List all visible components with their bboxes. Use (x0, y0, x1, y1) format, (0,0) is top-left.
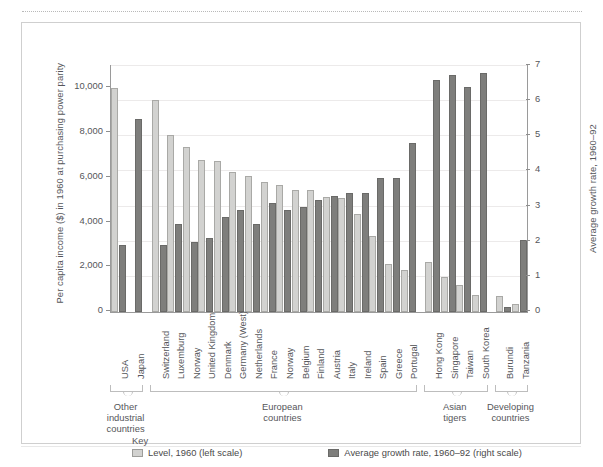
bar-growth-rate (504, 307, 511, 312)
bar-level (441, 277, 448, 312)
y-axis-right-tickmark (526, 169, 530, 170)
group-label-european: European countries (245, 401, 319, 423)
legend: Key Level, 1960 (left scale) Average gro… (132, 435, 602, 465)
x-axis-category-label: Norway (193, 347, 202, 379)
group-label-line: countries (89, 423, 163, 434)
top-divider (22, 11, 582, 12)
bar-growth-rate (362, 193, 369, 312)
bar-level (261, 182, 268, 312)
bar-level (456, 285, 463, 312)
y-axis-left-tick-label: 10,000 (57, 81, 103, 90)
x-axis-category-label: Taiwan (466, 350, 475, 379)
x-axis-category-label: Portugal (410, 344, 419, 379)
y-axis-left-tickmark (106, 310, 110, 311)
bar-level (401, 270, 408, 312)
brace-asian-tigers (424, 385, 488, 392)
group-label-line: industrial (89, 412, 163, 423)
y-axis-left-tickmark (106, 221, 110, 222)
x-axis-category-label: Luxemburg (177, 332, 186, 379)
bar-level (472, 295, 479, 312)
bar-level (292, 190, 299, 312)
group-braces: Other industrial countries European coun… (110, 385, 528, 433)
bar-level (425, 262, 432, 312)
x-axis-category-label: Belgium (302, 345, 311, 379)
bar-growth-rate (222, 217, 229, 312)
y-axis-left-tickmark (106, 176, 110, 177)
y-axis-left-tick-label: 2,000 (57, 260, 103, 269)
bar-growth-rate (284, 210, 291, 312)
bar-growth-rate (300, 207, 307, 312)
bar-level (214, 161, 221, 312)
bar-level (323, 197, 330, 312)
y-axis-right-tick-label: 6 (535, 94, 565, 103)
y-axis-left-tick-label: 0 (57, 305, 103, 314)
x-axis-category-label: United Kingdom (208, 313, 217, 379)
bar-growth-rate (449, 75, 456, 312)
y-axis-right-title: Average growth rate, 1960–92 (587, 84, 598, 294)
x-axis-category-label: Norway (286, 347, 295, 379)
bar-growth-rate (253, 224, 260, 312)
x-axis-category-labels: USAJapanSwitzerlandLuxemburgNorwayUnited… (110, 315, 528, 381)
bar-growth-rate (175, 224, 182, 312)
plot-area (110, 65, 528, 313)
bar-growth-rate (433, 80, 440, 312)
bar-level (512, 304, 519, 312)
legend-title: Key (132, 435, 602, 446)
figure-frame: Per capita income ($) in 1960 at purchas… (21, 22, 581, 444)
x-axis-category-label: Denmark (224, 341, 233, 379)
x-axis-category-label: Spain (379, 355, 388, 379)
bar-level (152, 100, 159, 312)
bar-level (183, 147, 190, 312)
bar-level (229, 172, 236, 312)
bar-level (385, 264, 392, 312)
group-label-line: Other (89, 401, 163, 412)
bar-level (354, 214, 361, 312)
x-axis-category-label: Germany (West) (239, 311, 248, 379)
bar-growth-rate (119, 245, 126, 312)
y-axis-right-tickmark (526, 64, 530, 65)
figure-page: Per capita income ($) in 1960 at purchas… (0, 0, 603, 467)
x-axis-category-label: Netherlands (255, 329, 264, 379)
x-axis-category-label: Singapore (451, 337, 460, 379)
bar-level (245, 176, 252, 312)
bar-growth-rate (464, 87, 471, 312)
brace-european (150, 385, 417, 392)
y-axis-right-tick-label: 0 (535, 305, 565, 314)
legend-items: Level, 1960 (left scale) Average growth … (132, 447, 602, 458)
bar-level (307, 190, 314, 312)
y-axis-left-tickmark (106, 131, 110, 132)
brace-other-industrial (110, 385, 143, 392)
brace-developing (495, 385, 528, 392)
legend-item-level: Level, 1960 (left scale) (132, 447, 242, 458)
bar-level (496, 296, 503, 312)
bar-growth-rate (237, 210, 244, 312)
y-axis-right-tick-label: 1 (535, 270, 565, 279)
bar-growth-rate (135, 119, 142, 312)
group-label-line: European (245, 401, 319, 412)
x-axis-category-label: Tanzania (522, 342, 531, 379)
y-axis-right-tickmark (526, 275, 530, 276)
x-axis-category-label: Burundi (506, 347, 515, 379)
group-label-other-industrial: Other industrial countries (89, 401, 163, 434)
bar-level (167, 135, 174, 312)
x-axis-category-label: Greece (395, 349, 404, 380)
bar-growth-rate (160, 245, 167, 312)
bar-growth-rate (269, 203, 276, 312)
x-axis-category-label: Austria (333, 350, 342, 379)
y-axis-right-tickmark (526, 310, 530, 311)
y-axis-right-tickmark (526, 99, 530, 100)
x-axis-category-label: Japan (137, 354, 146, 379)
bar-growth-rate (315, 200, 322, 312)
x-axis-category-label: France (270, 350, 279, 379)
y-axis-right-tickmark (526, 240, 530, 241)
bar-growth-rate (409, 143, 416, 312)
legend-swatch-growth-icon (328, 449, 339, 457)
legend-item-growth: Average growth rate, 1960–92 (right scal… (328, 447, 522, 458)
x-axis-category-label: USA (121, 360, 130, 379)
group-label-line: countries (245, 412, 319, 423)
y-axis-left-tick-label: 6,000 (57, 171, 103, 180)
y-axis-right-tick-label: 5 (535, 129, 565, 138)
group-label-line: countries (473, 412, 547, 423)
y-axis-right-tick-label: 4 (535, 164, 565, 173)
legend-label-growth: Average growth rate, 1960–92 (right scal… (344, 447, 522, 458)
